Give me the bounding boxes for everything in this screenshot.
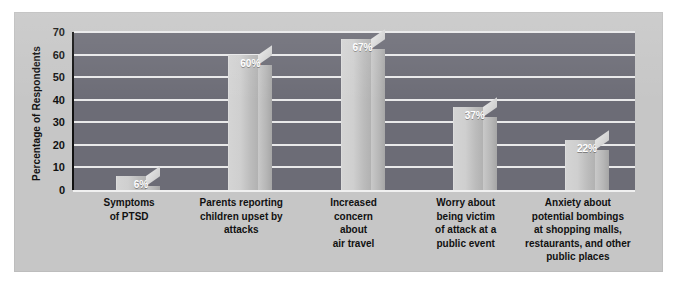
y-axis-tick-label: 10	[19, 162, 65, 173]
x-axis-category-label-line: about	[297, 223, 409, 237]
bar-side-face	[371, 49, 385, 190]
y-axis-tick-label: 40	[19, 94, 65, 105]
x-axis-category-label-line: being victim	[410, 210, 522, 224]
bar-value-label: 6%	[134, 179, 148, 190]
bar-side-face	[258, 65, 272, 190]
y-axis-tick-label: 30	[19, 117, 65, 128]
bar-value-label: 37%	[465, 110, 485, 121]
bar-top-face	[146, 167, 160, 187]
x-axis-category-label-line: restaurants, and other	[522, 237, 634, 251]
y-axis-tick-label: 50	[19, 72, 65, 83]
x-axis-category-label-line: of attack at a	[410, 223, 522, 237]
bar-side-face	[146, 186, 160, 190]
x-axis-category-label-line: Parents reporting	[185, 196, 297, 210]
x-axis-category-label-line: concern	[297, 210, 409, 224]
x-axis-category-labels: Symptomsof PTSDParents reportingchildren…	[73, 196, 634, 270]
bar[interactable]: 60%	[228, 55, 272, 190]
bar[interactable]: 22%	[565, 140, 609, 190]
y-axis-tick-label: 0	[19, 185, 65, 196]
y-axis-tick-label: 70	[19, 27, 65, 38]
x-axis-category-label: Increasedconcernaboutair travel	[297, 196, 409, 250]
bar-side-face	[595, 150, 609, 190]
x-axis-category-label: Parents reportingchildren upset byattack…	[185, 196, 297, 237]
plot-area: 6%60%67%37%22%	[73, 32, 635, 190]
x-axis-category-label-line: air travel	[297, 237, 409, 251]
x-axis-category-label: Anxiety aboutpotential bombingsat shoppi…	[522, 196, 634, 264]
bar-top-face	[258, 45, 272, 65]
x-axis-category-label-line: at shopping malls,	[522, 223, 634, 237]
chart-screenshot: Percentage of Respondents 01020304050607…	[0, 0, 677, 295]
y-axis-tick-label: 60	[19, 49, 65, 60]
chart-panel: Percentage of Respondents 01020304050607…	[14, 12, 663, 272]
y-axis-tick-label: 20	[19, 139, 65, 150]
x-axis-category-label-line: Symptoms	[73, 196, 185, 210]
x-axis-category-label: Symptomsof PTSD	[73, 196, 185, 223]
bar-front-face	[341, 39, 372, 190]
x-axis-category-label-line: Increased	[297, 196, 409, 210]
bar-side-face	[483, 117, 497, 191]
bar[interactable]: 37%	[453, 107, 497, 191]
x-axis-category-label-line: children upset by	[185, 210, 297, 224]
x-axis-category-label: Worry aboutbeing victimof attack at apub…	[410, 196, 522, 250]
bar-value-label: 60%	[240, 58, 260, 69]
x-axis-line	[73, 190, 635, 192]
x-axis-category-label-line: of PTSD	[73, 210, 185, 224]
x-axis-category-label-line: attacks	[185, 223, 297, 237]
gridline	[74, 31, 635, 33]
bar[interactable]: 6%	[116, 176, 160, 190]
x-axis-category-label-line: public event	[410, 237, 522, 251]
y-axis-tick-labels: 010203040506070	[14, 12, 73, 272]
bar-value-label: 67%	[352, 42, 372, 53]
x-axis-category-label-line: potential bombings	[522, 210, 634, 224]
bar-value-label: 22%	[577, 143, 597, 154]
x-axis-category-label-line: public places	[522, 250, 634, 264]
bar-front-face	[228, 55, 259, 190]
bar[interactable]: 67%	[341, 39, 385, 190]
x-axis-category-label-line: Anxiety about	[522, 196, 634, 210]
x-axis-category-label-line: Worry about	[410, 196, 522, 210]
